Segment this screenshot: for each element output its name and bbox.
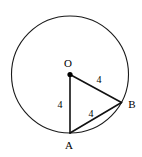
point-label-o: O — [64, 57, 72, 69]
circle-geometry-diagram: O A B 4 4 4 — [0, 0, 142, 157]
geometry-figure-canvas: O A B 4 4 4 — [0, 0, 142, 157]
length-label-ob: 4 — [97, 74, 102, 85]
length-label-oa: 4 — [58, 99, 63, 110]
point-label-b: B — [128, 98, 135, 110]
length-label-ab: 4 — [89, 108, 94, 119]
center-point-dot — [67, 72, 72, 77]
point-label-a: A — [65, 139, 73, 151]
chord-ab-line — [70, 103, 122, 134]
